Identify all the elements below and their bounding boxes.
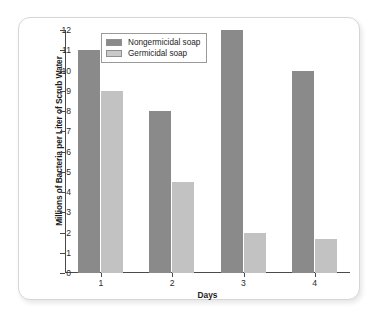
bar-group: [145, 30, 216, 273]
bar-group: [74, 30, 145, 273]
bars-layer: [65, 30, 350, 273]
x-tick-label: 3: [224, 278, 264, 288]
x-axis-title: Days: [65, 290, 350, 300]
legend-item: Nongermicidal soap: [106, 37, 200, 48]
x-tick-label: 4: [295, 278, 335, 288]
y-axis-title: Millions of Bacteria per Liter of Scrub …: [54, 21, 64, 261]
x-tick-mark: [172, 273, 173, 277]
x-tick-mark: [315, 273, 316, 277]
x-tick-label: 1: [81, 278, 121, 288]
bar-nongermicidal: [78, 50, 100, 273]
bar-germicidal: [315, 239, 337, 273]
bar-germicidal: [244, 233, 266, 274]
legend-label: Nongermicidal soap: [128, 38, 200, 47]
bar-nongermicidal: [149, 111, 171, 273]
bar-nongermicidal: [221, 30, 243, 273]
x-tick-label: 2: [152, 278, 192, 288]
x-tick-mark: [101, 273, 102, 277]
bar-germicidal: [172, 182, 194, 273]
bar-germicidal: [101, 91, 123, 273]
x-tick-mark: [244, 273, 245, 277]
legend-swatch-icon: [106, 39, 122, 46]
chart-legend: Nongermicidal soapGermicidal soap: [101, 33, 207, 63]
legend-item: Germicidal soap: [106, 48, 200, 59]
bar-group: [288, 30, 359, 273]
bar-group: [217, 30, 288, 273]
y-tick-mark: [60, 273, 65, 274]
bar-nongermicidal: [292, 71, 314, 274]
chart-card: Millions of Bacteria per Liter of Scrub …: [18, 17, 360, 300]
legend-swatch-icon: [106, 50, 122, 57]
legend-label: Germicidal soap: [128, 49, 187, 58]
bar-chart: Millions of Bacteria per Liter of Scrub …: [19, 18, 361, 301]
